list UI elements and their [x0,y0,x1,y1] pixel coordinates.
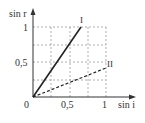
x-tick-one: 1 [102,99,107,110]
y-axis-arrow-icon [31,8,36,15]
grid [33,27,106,97]
series-I-label: I [80,15,83,25]
x-tick-half: 0,5 [61,99,74,110]
origin-label: 0 [24,99,29,110]
x-axis-label: sin i [118,99,135,110]
series-II-label: II [107,59,113,69]
y-axis-label: sin r [9,8,27,19]
y-tick-one: 1 [23,22,28,33]
refraction-chart: sin r sin i 1 0,5 0 0,5 1 I II [0,0,145,123]
series-II-line [33,68,106,97]
axes [33,11,134,97]
y-tick-half: 0,5 [15,57,28,68]
